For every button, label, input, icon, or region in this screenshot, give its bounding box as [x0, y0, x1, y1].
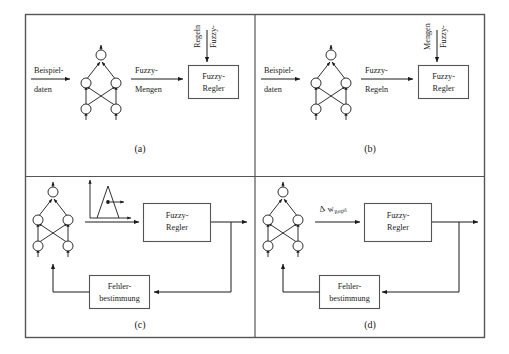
panel-a-controller-box — [189, 66, 239, 99]
panel-c-error-label-1: Fehler- — [108, 282, 132, 291]
figure-root: Beispiel- daten Fuzzy- Menge — [0, 0, 509, 354]
panel-c-error-label-2: bestimmung — [99, 294, 139, 303]
panel-a-input-label-1: Beispiel- — [34, 66, 64, 75]
panel-a-controller-label-2: Regler — [203, 84, 225, 93]
panel-b-middle-label-2: Regeln — [365, 85, 388, 94]
panel-d-caption: (d) — [364, 319, 376, 331]
panel-d-error-label-1: Fehler- — [338, 282, 362, 291]
panel-d-controller-label-1: Fuzzy- — [387, 211, 410, 220]
panel-b-controller-box — [419, 66, 469, 99]
panel-b-input-label-2: daten — [264, 85, 282, 94]
panel-a-vertical-label-1: Fuzzy- — [209, 25, 218, 48]
panel-a-middle-label-1: Fuzzy- — [135, 66, 158, 75]
panel-c-caption: (c) — [134, 319, 145, 331]
panel-c-controller-label-1: Fuzzy- — [166, 211, 189, 220]
panel-b-caption: (b) — [364, 143, 376, 155]
panel-c-controller-label-2: Regler — [166, 223, 188, 232]
panel-c-error-box — [90, 276, 150, 309]
panel-b-middle-label-1: Fuzzy- — [365, 66, 388, 75]
panel-b-vertical-label-2: Mengen — [423, 23, 432, 50]
panel-b-vertical-label-1: Fuzzy- — [439, 25, 448, 48]
panel-a-controller-label-1: Fuzzy- — [202, 72, 225, 81]
panel-a-vertical-label-2: Regeln — [193, 25, 202, 48]
panel-a-input-label-2: daten — [34, 85, 52, 94]
panel-d-controller-label-2: Regler — [387, 223, 409, 232]
panel-b-input-label-1: Beispiel- — [264, 66, 294, 75]
panel-a-caption: (a) — [134, 143, 145, 155]
panel-b-controller-label-1: Fuzzy- — [432, 72, 455, 81]
panel-d-error-box — [320, 276, 380, 309]
panel-d-error-label-2: bestimmung — [329, 294, 369, 303]
panel-a-middle-label-2: Mengen — [135, 85, 162, 94]
panel-b-controller-label-2: Regler — [433, 84, 455, 93]
